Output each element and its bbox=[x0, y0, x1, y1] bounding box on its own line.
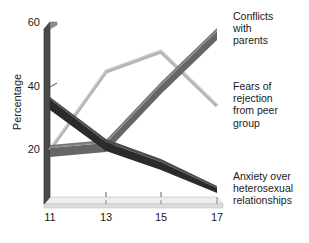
x-tick-label-13: 13 bbox=[94, 212, 118, 223]
x-tick-label-11: 11 bbox=[38, 212, 62, 223]
series-label-anxiety-heterosexual: Anxiety over heterosexual relationships bbox=[233, 170, 293, 207]
y-axis-title: Percentage bbox=[11, 64, 23, 140]
series-label-fears-of-rejection: Fears of rejection from peer group bbox=[233, 80, 278, 129]
series-conflicts-with-parents bbox=[50, 28, 217, 157]
x-axis-floor bbox=[44, 197, 223, 208]
y-tick-label-40: 40 bbox=[14, 81, 40, 92]
series-fears-of-rejection bbox=[50, 50, 217, 150]
x-tick-label-17: 17 bbox=[205, 212, 229, 223]
line-chart: Percentage 60 40 20 11 13 15 17 Conflict… bbox=[0, 0, 309, 243]
y-tick-mark-40 bbox=[50, 83, 57, 87]
x-tick-label-15: 15 bbox=[149, 212, 173, 223]
y-tick-label-60: 60 bbox=[14, 17, 40, 28]
y-tick-label-20: 20 bbox=[14, 144, 40, 155]
series-label-conflicts-with-parents: Conflicts with parents bbox=[233, 10, 273, 47]
